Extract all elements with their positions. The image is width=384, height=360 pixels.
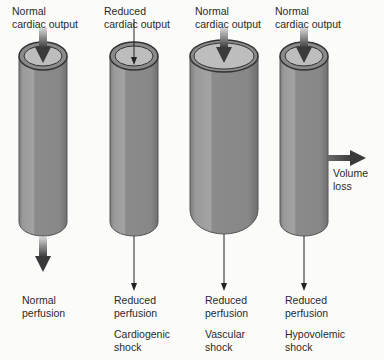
input-label: Normal cardiac output [195, 5, 261, 30]
vessel-normal [19, 42, 67, 236]
output-arrow-thin-icon [301, 236, 307, 291]
shock-type-label: Vascular shock [205, 328, 245, 353]
shock-perfusion-diagram: Normal cardiac output Normal perfusion R… [0, 0, 384, 360]
input-label: Reduced cardiac output [104, 5, 170, 30]
input-label: Normal cardiac output [12, 5, 78, 30]
vessel-cardiogenic [110, 42, 158, 236]
vessel-dilated [190, 40, 258, 234]
shock-type-label: Hypovolemic shock [285, 328, 345, 353]
output-label: Reduced perfusion [205, 294, 248, 319]
output-label: Normal perfusion [22, 294, 65, 319]
volume-loss-label: Volume loss [333, 167, 368, 192]
shock-type-label: Cardiogenic shock [114, 328, 170, 353]
output-arrow-thin-icon [131, 236, 137, 291]
vessel-hypovolemic [280, 42, 328, 236]
output-arrow-thick-icon [35, 237, 51, 272]
input-label: Normal cardiac output [275, 5, 341, 30]
volume-loss-arrow-icon [328, 150, 366, 166]
output-label: Reduced perfusion [285, 294, 328, 319]
output-label: Reduced perfusion [114, 294, 157, 319]
output-arrow-thin-icon [221, 234, 227, 291]
